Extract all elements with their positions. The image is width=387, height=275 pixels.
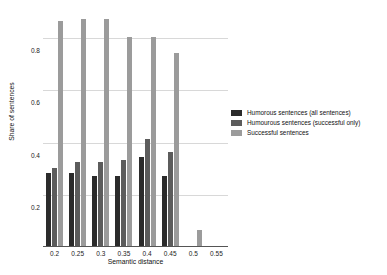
bar: [168, 152, 173, 246]
bar-group: [139, 37, 156, 246]
x-tick-label: 0.45: [164, 250, 177, 257]
legend-item: Humourous sentences (successful only): [231, 119, 360, 126]
legend-swatch: [231, 110, 242, 116]
bar: [162, 176, 167, 247]
x-axis-label: Semantic distance: [43, 258, 228, 265]
x-tick-label: 0.4: [143, 250, 152, 257]
bar: [92, 176, 97, 247]
y-tick-label: 0.4: [31, 151, 40, 158]
bar: [52, 168, 57, 246]
bar: [75, 162, 80, 246]
bar: [121, 160, 126, 246]
bar: [151, 37, 156, 246]
y-tick-label: 0.8: [31, 47, 40, 54]
bar: [69, 173, 74, 246]
x-tick-label: 0.2: [50, 250, 59, 257]
x-tick-label: 0.3: [96, 250, 105, 257]
bar: [145, 139, 150, 246]
bar-group: [185, 230, 202, 246]
bars-layer: [43, 12, 228, 247]
bar: [139, 157, 144, 246]
legend-label: Humourous sentences (successful only): [247, 119, 360, 126]
y-axis-ticks: 0.20.40.60.8: [14, 12, 40, 247]
bar: [127, 37, 132, 246]
legend-label: Successful sentences: [247, 129, 309, 136]
bar-group: [92, 19, 109, 246]
bar: [46, 173, 51, 246]
y-tick-label: 0.6: [31, 99, 40, 106]
bar: [98, 162, 103, 246]
bar: [104, 19, 109, 246]
bar-group: [115, 37, 132, 246]
legend-item: Successful sentences: [231, 129, 360, 136]
legend: Humorous sentences (all sentences)Humour…: [231, 109, 360, 136]
bar: [174, 53, 179, 246]
bar-chart: 0.20.40.60.8 0.20.250.30.350.40.450.50.5…: [0, 0, 387, 275]
bar: [81, 19, 86, 246]
bar: [58, 21, 63, 246]
x-tick-label: 0.25: [71, 250, 84, 257]
legend-item: Humorous sentences (all sentences): [231, 109, 360, 116]
bar: [115, 176, 120, 247]
plot-area: [43, 12, 228, 247]
bar-group: [69, 19, 86, 246]
bar-group: [162, 53, 179, 246]
legend-swatch: [231, 130, 242, 136]
legend-label: Humorous sentences (all sentences): [247, 109, 351, 116]
x-tick-label: 0.5: [189, 250, 198, 257]
legend-swatch: [231, 120, 242, 126]
bar: [197, 230, 202, 246]
y-axis-label: Share of sentences: [8, 52, 15, 172]
y-tick-label: 0.2: [31, 203, 40, 210]
x-tick-label: 0.55: [210, 250, 223, 257]
bar-group: [46, 21, 63, 246]
x-tick-label: 0.35: [118, 250, 131, 257]
